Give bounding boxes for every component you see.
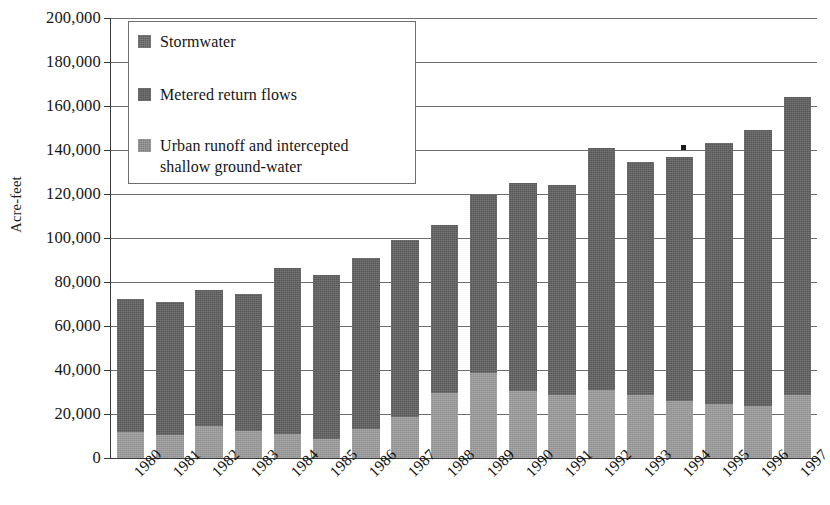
bar-segment-urban-runoff xyxy=(588,390,615,458)
bar-segment-urban-runoff xyxy=(470,373,497,458)
bar-1995 xyxy=(705,143,732,458)
y-axis-tick-mark xyxy=(104,282,111,283)
chart-annotation-mark xyxy=(681,145,686,150)
bar-1993 xyxy=(627,162,654,458)
bar-1985 xyxy=(313,275,340,458)
y-axis-tick-label: 60,000 xyxy=(54,316,101,336)
bar-1991 xyxy=(548,185,575,458)
legend-label-urban-runoff-line1: Urban runoff and intercepted xyxy=(160,137,349,154)
bar-1982 xyxy=(195,290,222,458)
y-axis-tick-mark xyxy=(104,458,111,459)
y-axis-tick-label: 120,000 xyxy=(46,184,101,204)
bar-segment-metered-return-flows xyxy=(195,290,222,426)
bar-1984 xyxy=(274,268,301,458)
bar-segment-metered-return-flows xyxy=(235,294,262,430)
bar-segment-urban-runoff xyxy=(391,417,418,458)
legend-label-urban-runoff: Urban runoff and interceptedshallow grou… xyxy=(160,135,349,177)
legend-swatch-urban-runoff-icon xyxy=(138,139,151,152)
bar-segment-urban-runoff xyxy=(431,393,458,458)
bar-segment-urban-runoff xyxy=(509,391,536,458)
bar-segment-metered-return-flows xyxy=(548,185,575,395)
bar-1987 xyxy=(391,240,418,458)
bar-segment-urban-runoff xyxy=(666,401,693,458)
bar-1988 xyxy=(431,225,458,458)
bar-segment-metered-return-flows xyxy=(274,268,301,434)
y-axis-tick-mark xyxy=(104,238,111,239)
y-axis-tick-mark xyxy=(104,18,111,19)
legend-label-metered-return-flows: Metered return flows xyxy=(160,84,297,105)
y-axis-tick-label: 200,000 xyxy=(46,8,101,28)
y-axis-tick-mark xyxy=(104,326,111,327)
bar-1989 xyxy=(470,194,497,458)
bar-segment-stormwater xyxy=(784,97,811,117)
y-axis-tick-label: 140,000 xyxy=(46,140,101,160)
y-axis-tick-mark xyxy=(104,370,111,371)
bar-segment-metered-return-flows xyxy=(156,302,183,435)
bar-segment-metered-return-flows xyxy=(313,275,340,439)
bar-1996 xyxy=(744,130,771,458)
y-axis-tick-label: 80,000 xyxy=(54,272,101,292)
y-axis-tick-label: 160,000 xyxy=(46,96,101,116)
bar-1997 xyxy=(784,97,811,458)
bar-segment-metered-return-flows xyxy=(784,117,811,395)
bar-segment-metered-return-flows xyxy=(744,130,771,406)
legend-swatch-stormwater-icon xyxy=(138,35,151,48)
bar-segment-metered-return-flows xyxy=(666,157,693,401)
y-axis-title: Acre-feet xyxy=(8,145,25,265)
legend-swatch-metered-return-flows-icon xyxy=(138,88,151,101)
bar-1980 xyxy=(117,299,144,459)
y-axis-tick-label: 20,000 xyxy=(54,404,101,424)
bar-segment-urban-runoff xyxy=(117,432,144,458)
bar-segment-urban-runoff xyxy=(548,395,575,458)
y-axis-tick-mark xyxy=(104,194,111,195)
y-axis-tick-mark xyxy=(104,150,111,151)
bar-1992 xyxy=(588,148,615,458)
legend-item-metered-return-flows: Metered return flows xyxy=(138,84,297,105)
legend-label-stormwater: Stormwater xyxy=(160,31,236,52)
y-axis-tick-mark xyxy=(104,62,111,63)
x-axis-labels: 1980198119821983198419851986198719881989… xyxy=(110,460,816,505)
bar-segment-metered-return-flows xyxy=(627,162,654,395)
bar-segment-urban-runoff xyxy=(627,395,654,458)
bar-segment-metered-return-flows xyxy=(705,143,732,404)
bar-segment-metered-return-flows xyxy=(509,183,536,391)
bar-segment-metered-return-flows xyxy=(352,258,379,430)
legend-item-urban-runoff: Urban runoff and interceptedshallow grou… xyxy=(138,135,349,177)
bar-segment-metered-return-flows xyxy=(117,299,144,432)
legend-item-stormwater: Stormwater xyxy=(138,31,236,52)
legend-label-urban-runoff-line2: shallow ground-water xyxy=(160,158,302,175)
bar-segment-urban-runoff xyxy=(705,404,732,458)
bar-segment-metered-return-flows xyxy=(470,194,497,373)
bar-1981 xyxy=(156,302,183,458)
bar-segment-urban-runoff xyxy=(784,395,811,458)
bar-1983 xyxy=(235,294,262,458)
y-axis-tick-label: 40,000 xyxy=(54,360,101,380)
bar-segment-metered-return-flows xyxy=(391,240,418,417)
bar-segment-urban-runoff xyxy=(744,406,771,458)
bar-1994 xyxy=(666,157,693,458)
y-axis-tick-mark xyxy=(104,106,111,107)
bar-segment-metered-return-flows xyxy=(588,170,615,390)
bar-segment-stormwater xyxy=(588,148,615,170)
legend: Stormwater Metered return flows Urban ru… xyxy=(128,21,416,184)
y-axis-tick-label: 180,000 xyxy=(46,52,101,72)
bar-1990 xyxy=(509,183,536,458)
y-axis-tick-label: 100,000 xyxy=(46,228,101,248)
bar-1986 xyxy=(352,258,379,458)
y-axis-tick-mark xyxy=(104,414,111,415)
y-axis-tick-label: 0 xyxy=(93,448,101,468)
bar-segment-metered-return-flows xyxy=(431,225,458,393)
